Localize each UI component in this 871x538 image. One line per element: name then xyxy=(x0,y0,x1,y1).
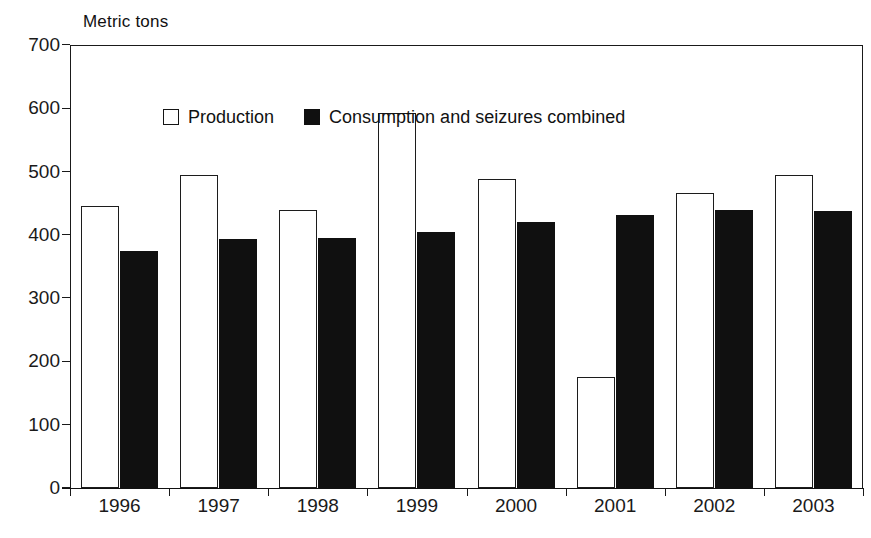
legend-entry-consumption: Consumption and seizures combined xyxy=(304,108,625,126)
plot-area: ProductionConsumption and seizures combi… xyxy=(70,45,863,488)
y-axis-tick-mark xyxy=(62,44,70,45)
plot-frame-top xyxy=(70,45,863,46)
x-axis-tick-mark xyxy=(169,488,170,496)
bar-chart-figure: Metric tons 0100200300400500600700 19961… xyxy=(0,0,871,538)
bar-2003-consumption xyxy=(814,211,852,488)
bar-1999-consumption xyxy=(417,232,455,488)
bar-2001-production xyxy=(577,377,615,488)
x-axis-tick-label-1996: 1996 xyxy=(70,496,169,516)
bar-2002-production xyxy=(676,193,714,488)
bar-1998-production xyxy=(279,210,317,488)
legend-label: Production xyxy=(188,108,274,126)
x-axis-tick-label-2001: 2001 xyxy=(566,496,665,516)
y-axis-tick-mark xyxy=(62,361,70,362)
y-axis-tick-mark xyxy=(62,171,70,172)
y-axis-tick-label: 200 xyxy=(14,351,60,370)
plot-frame-bottom xyxy=(62,488,863,489)
bar-2000-consumption xyxy=(517,222,555,488)
x-axis-tick-label-2003: 2003 xyxy=(764,496,863,516)
y-axis-tick-mark xyxy=(62,234,70,235)
y-axis-tick-mark xyxy=(62,297,70,298)
hollow-square-icon xyxy=(163,109,179,125)
plot-frame-right xyxy=(862,45,863,488)
bar-1996-consumption xyxy=(120,251,158,488)
x-axis-tick-mark xyxy=(566,488,567,496)
y-axis-tick-label: 500 xyxy=(14,162,60,181)
y-axis-unit-label: Metric tons xyxy=(83,12,168,32)
x-axis-tick-label-1997: 1997 xyxy=(169,496,268,516)
y-axis-tick-label: 400 xyxy=(14,225,60,244)
bar-2001-consumption xyxy=(616,215,654,488)
chart-legend: ProductionConsumption and seizures combi… xyxy=(163,108,625,126)
y-axis-tick-label: 600 xyxy=(14,98,60,117)
bar-1998-consumption xyxy=(318,238,356,488)
x-axis-tick-mark xyxy=(764,488,765,496)
x-axis-tick-mark xyxy=(70,488,71,496)
bar-1999-production xyxy=(378,113,416,488)
legend-entry-production: Production xyxy=(163,108,274,126)
x-axis-tick-label-2000: 2000 xyxy=(467,496,566,516)
y-axis-tick-label: 700 xyxy=(14,35,60,54)
y-axis-tick-label: 0 xyxy=(14,478,60,497)
x-axis-tick-mark xyxy=(367,488,368,496)
x-axis-tick-mark xyxy=(665,488,666,496)
x-axis-tick-mark xyxy=(863,488,864,496)
x-axis-tick-label-1999: 1999 xyxy=(367,496,466,516)
y-axis-tick-mark xyxy=(62,424,70,425)
bar-2002-consumption xyxy=(715,210,753,488)
y-axis-tick-label: 300 xyxy=(14,288,60,307)
x-axis-tick-label-1998: 1998 xyxy=(268,496,367,516)
bar-1997-production xyxy=(180,175,218,488)
filled-square-icon xyxy=(304,109,320,125)
bar-1997-consumption xyxy=(219,239,257,488)
y-axis-tick-label: 100 xyxy=(14,415,60,434)
x-axis-tick-label-2002: 2002 xyxy=(665,496,764,516)
y-axis-tick-mark xyxy=(62,108,70,109)
legend-label: Consumption and seizures combined xyxy=(329,108,625,126)
plot-frame-left xyxy=(70,45,71,488)
x-axis-tick-mark xyxy=(268,488,269,496)
bar-2003-production xyxy=(775,175,813,488)
x-axis-tick-mark xyxy=(467,488,468,496)
bar-2000-production xyxy=(478,179,516,488)
bar-1996-production xyxy=(81,206,119,488)
